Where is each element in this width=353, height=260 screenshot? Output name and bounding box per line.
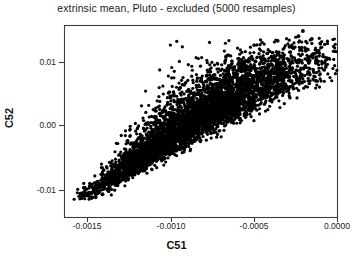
plot-canvas bbox=[0, 0, 353, 260]
scatter-plot-figure: extrinsic mean, Pluto - excluded (5000 r… bbox=[0, 0, 353, 260]
scatter-points bbox=[73, 29, 339, 201]
